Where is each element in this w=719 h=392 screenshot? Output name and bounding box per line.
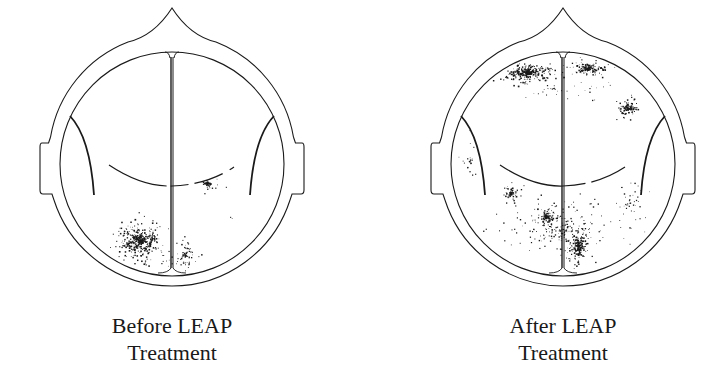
skull-outline: [451, 52, 675, 276]
caption-after-line2: Treatment: [413, 339, 713, 366]
panel-before: Before LEAP Treatment: [22, 0, 322, 392]
midline-fissure: [549, 52, 577, 273]
activity-stipple: [459, 57, 650, 269]
caption-after: After LEAP Treatment: [413, 312, 713, 366]
caption-before: Before LEAP Treatment: [22, 312, 322, 366]
caption-before-line2: Treatment: [22, 339, 322, 366]
eeg-comparison-figure: Before LEAP Treatment After LEAP Treatme…: [0, 0, 719, 392]
head-map-before: [22, 0, 322, 300]
caption-before-line1: Before LEAP: [22, 312, 322, 339]
head-outline: [431, 8, 695, 286]
sulci-lines: [70, 116, 274, 195]
midline-fissure: [158, 52, 186, 273]
caption-after-line1: After LEAP: [413, 312, 713, 339]
head-map-after: [413, 0, 713, 300]
head-outline: [40, 8, 304, 286]
skull-outline: [60, 52, 284, 276]
panel-after: After LEAP Treatment: [413, 0, 713, 392]
